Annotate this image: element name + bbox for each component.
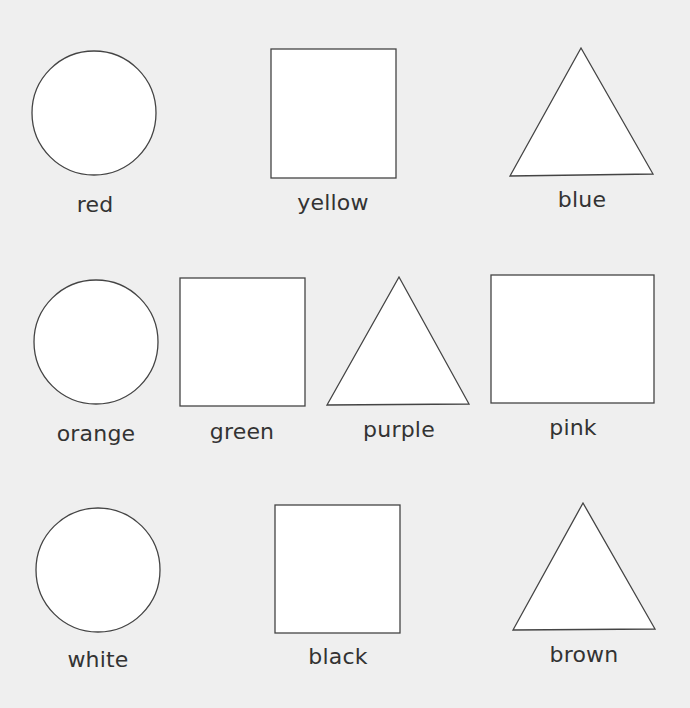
shape-label: brown: [550, 644, 619, 666]
circle-shape-white: [36, 508, 160, 632]
shapes-worksheet: red yellow blue orange green purple pink…: [0, 0, 690, 708]
triangle-shape-brown: [513, 503, 655, 630]
shape-label: purple: [363, 419, 435, 441]
triangle-shape-purple: [327, 277, 469, 405]
shape-label: white: [67, 649, 128, 671]
rectangle-shape-pink: [491, 275, 654, 403]
shape-label: pink: [549, 417, 597, 439]
shape-label: orange: [57, 423, 136, 445]
shape-label: black: [308, 646, 367, 668]
shape-label: red: [77, 194, 114, 216]
shape-label: blue: [558, 189, 606, 211]
square-shape-yellow: [271, 49, 396, 178]
triangle-shape-blue: [510, 48, 653, 176]
square-shape-green: [180, 278, 305, 406]
shape-label: yellow: [297, 192, 368, 214]
shapes-drawing: [0, 0, 690, 708]
square-shape-black: [275, 505, 400, 633]
circle-shape-red: [32, 51, 156, 175]
circle-shape-orange: [34, 280, 158, 404]
shape-label: green: [210, 421, 275, 443]
